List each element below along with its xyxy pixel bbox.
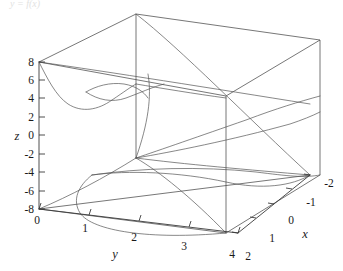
x-axis: 2 1 0 -1 -2 x — [232, 174, 334, 262]
y-tick-label-1: 1 — [82, 222, 88, 234]
z-tick-label-neg8: -8 — [24, 203, 34, 215]
y-axis-ticks — [39, 203, 240, 233]
z-tick-label-6: 6 — [28, 74, 34, 86]
z-tick-label-neg2: -2 — [24, 148, 34, 160]
z-axis-ticks — [39, 62, 45, 209]
y-tick-label-3: 3 — [181, 240, 187, 252]
z-tick-label-4: 4 — [28, 92, 34, 104]
y-tick-label-0: 0 — [34, 214, 40, 226]
y-tick-label-2: 2 — [131, 231, 137, 243]
box-top-face — [39, 14, 320, 96]
cropped-caption-text: y = f(x) — [10, 0, 40, 9]
y-axis: 0 1 2 3 4 y — [34, 203, 240, 261]
x-axis-ticks — [232, 174, 310, 233]
z-tick-label-8: 8 — [28, 56, 34, 68]
x-tick-label-neg2: -2 — [324, 177, 334, 189]
box-vertical-edges — [39, 14, 320, 233]
plot-canvas: 8 6 4 2 0 -2 -4 -6 -8 z 0 1 2 3 4 — [0, 0, 343, 271]
z-axis-label: z — [14, 129, 20, 143]
y-tick-label-4: 4 — [229, 248, 235, 260]
y-axis-label: y — [110, 247, 118, 261]
surface-plot-figure: y = f(x) — [0, 0, 343, 271]
z-axis: 8 6 4 2 0 -2 -4 -6 -8 z — [14, 56, 45, 215]
z-tick-label-neg4: -4 — [24, 166, 34, 178]
x-axis-label: x — [301, 227, 308, 241]
z-tick-label-0: 0 — [28, 129, 34, 141]
x-tick-label-neg1: -1 — [306, 196, 316, 208]
x-tick-label-2: 2 — [245, 250, 251, 262]
x-tick-label-1: 1 — [269, 232, 275, 244]
x-tick-label-0: 0 — [288, 214, 294, 226]
z-tick-label-2: 2 — [28, 111, 34, 123]
z-tick-label-neg6: -6 — [24, 185, 34, 197]
